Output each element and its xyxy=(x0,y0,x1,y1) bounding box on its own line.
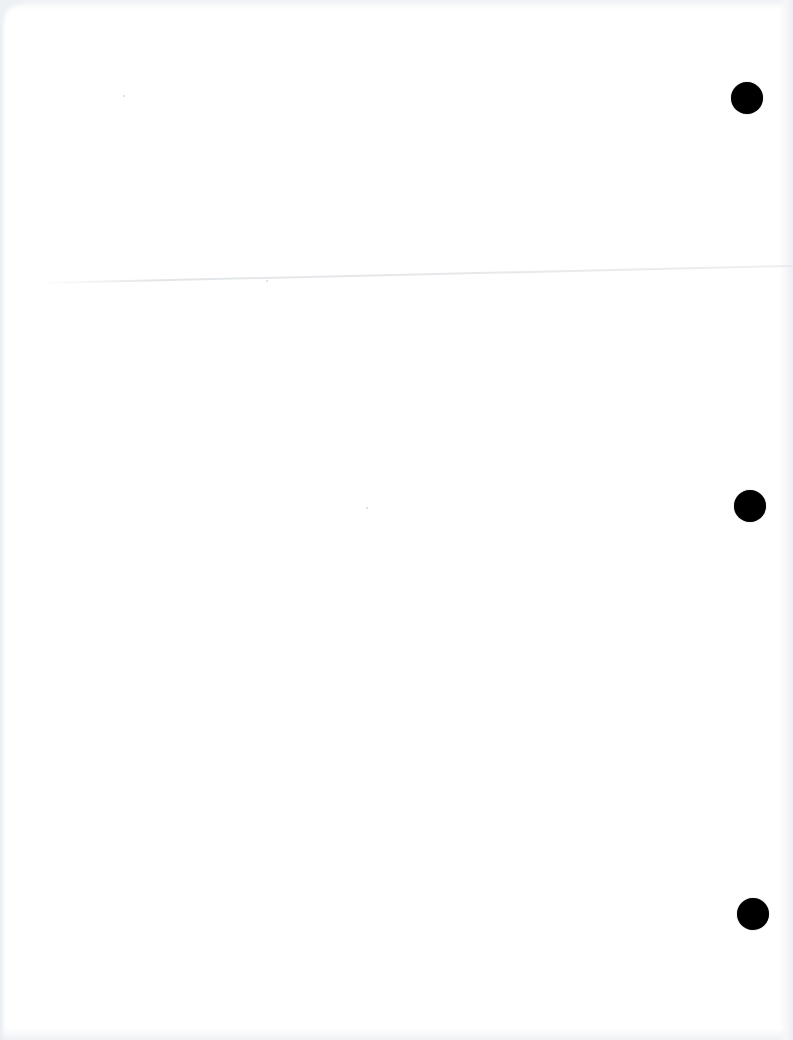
dust-speck xyxy=(123,95,125,97)
fold-crease xyxy=(40,265,793,284)
dust-speck xyxy=(366,507,368,509)
scan-edge-bottom xyxy=(0,1028,793,1040)
paper-corner xyxy=(0,0,24,24)
scan-edge-top xyxy=(0,0,793,10)
punch-hole-bottom xyxy=(737,898,769,930)
dust-speck xyxy=(266,280,268,282)
punch-hole-top xyxy=(731,82,763,114)
scanned-page xyxy=(0,0,793,1040)
scan-edge-right xyxy=(779,0,793,1040)
punch-hole-middle xyxy=(734,490,766,522)
scan-edge-left xyxy=(0,0,6,1040)
